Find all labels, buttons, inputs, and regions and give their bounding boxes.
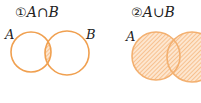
diagram-1-title: ①A∩B [15,5,59,19]
diagram-2-label-a: A [126,30,135,43]
diagram-1-number: ① [15,5,27,20]
diagram-2-number: ② [131,5,143,20]
diagram-1-label-a: A [5,28,14,41]
diagram-1-expression: A∩B [27,4,59,20]
diagram-1-label-b: B [86,28,96,41]
venn-union-diagram [132,32,201,82]
venn-intersection-diagram [11,31,89,75]
diagram-2-expression: A∪B [143,4,175,20]
diagram-2-title: ②A∪B [131,5,175,19]
